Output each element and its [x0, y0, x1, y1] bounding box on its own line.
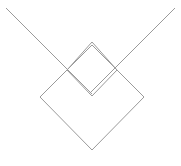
diagonal-line-top-right-icon: [89, 8, 175, 94]
figure-canvas: [0, 0, 181, 166]
line-figure: [0, 0, 181, 166]
large-diamond-shape: [40, 45, 144, 150]
diagonal-line-top-left-icon: [6, 8, 92, 94]
small-diamond-shape: [67, 42, 117, 96]
